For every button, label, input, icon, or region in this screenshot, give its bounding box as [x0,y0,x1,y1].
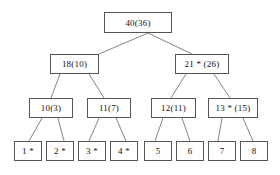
tree-node-leaf4: 4 * [110,141,138,161]
tree-node-label: 11(7) [99,103,119,113]
tree-node-label: 21 * (26) [185,59,220,69]
tree-node-root: 40(36) [104,12,172,33]
tree-node-label: 13 * (15) [216,103,251,113]
tree-node-label: 5 [156,146,161,156]
tree-node-leaf7: 7 [208,141,236,161]
tree-node-n11: 11(7) [87,98,131,118]
tree-edge [51,74,60,98]
tree-node-n10: 10(3) [29,98,73,118]
tree-node-n21: 21 * (26) [175,54,229,74]
tree-edge [243,118,253,141]
tree-node-label: 1 * [22,146,34,156]
tree-edge [148,33,192,54]
tree-edge [182,118,190,141]
tree-edge [218,118,222,141]
tree-edge [89,118,99,141]
tree-node-n12: 12(11) [151,98,196,118]
tree-node-label: 10(3) [41,103,62,113]
tree-node-label: 18(10) [62,59,87,69]
tree-edge [89,74,104,98]
tree-edge [29,118,42,141]
tree-node-label: 6 [188,146,193,156]
tree-edge [155,118,163,141]
tree-node-leaf2: 2 * [46,141,74,161]
tree-node-label: 7 [220,146,225,156]
tree-node-leaf3: 3 * [78,141,106,161]
tree-node-leaf6: 6 [176,141,204,161]
binary-tree-diagram: 40(36)18(10)21 * (26)10(3)11(7)12(11)13 … [0,0,280,175]
tree-node-label: 2 * [54,146,66,156]
tree-node-leaf1: 1 * [14,141,42,161]
tree-node-n18: 18(10) [50,54,99,74]
tree-node-label: 3 * [86,146,98,156]
tree-edge [171,74,186,98]
tree-edge [58,118,64,141]
tree-node-label: 40(36) [125,18,150,28]
tree-node-n13: 13 * (15) [208,98,258,118]
tree-node-label: 8 [252,146,257,156]
tree-node-label: 12(11) [161,103,186,113]
tree-edge [99,33,148,54]
tree-node-label: 4 * [118,146,130,156]
tree-edge [116,118,126,141]
tree-edge [214,74,230,98]
tree-node-leaf5: 5 [144,141,172,161]
tree-node-leaf8: 8 [240,141,268,161]
